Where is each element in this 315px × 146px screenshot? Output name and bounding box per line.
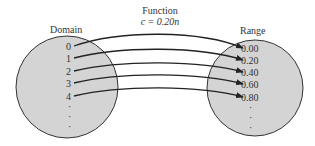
range-value: 0.40 — [241, 68, 259, 78]
range-value: 0.60 — [241, 80, 259, 90]
function-label: Function — [110, 5, 210, 16]
arrow-0 — [74, 34, 243, 48]
function-title: Function c = 0.20n — [110, 5, 210, 27]
domain-value: 3 — [66, 79, 71, 89]
domain-label: Domain — [50, 24, 82, 35]
range-label: Range — [240, 25, 266, 36]
range-ellipsis: · — [249, 123, 252, 133]
domain-value: 1 — [66, 54, 71, 64]
domain-value: 0 — [66, 42, 71, 52]
domain-value: 2 — [66, 67, 71, 77]
domain-ellipsis: · — [68, 122, 71, 132]
function-formula: c = 0.20n — [110, 16, 210, 27]
range-value: 0.20 — [241, 56, 259, 66]
range-value: 0.00 — [241, 44, 259, 54]
function-mapping-diagram: Function c = 0.20n Domain Range 0 1 2 3 … — [0, 0, 315, 146]
